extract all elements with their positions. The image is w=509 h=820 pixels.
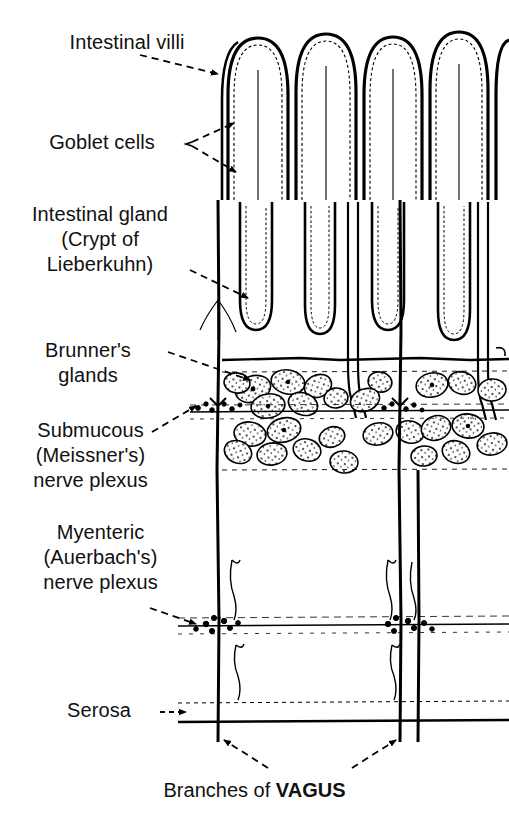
villus [296, 34, 356, 200]
label-submucous-plexus: Submucous (Meissner's) nerve plexus [8, 418, 173, 493]
myenteric-plexus [178, 615, 509, 634]
caption-prefix: Branches of [164, 779, 276, 801]
brunners-glands-group [221, 367, 509, 475]
crypt [240, 202, 272, 330]
caption-vagus: Branches of VAGUS [0, 778, 509, 802]
label-goblet-cells: Goblet cells [22, 130, 182, 155]
label-intestinal-gland: Intestinal gland (Crypt of Lieberkuhn) [10, 202, 190, 277]
villus [496, 40, 509, 200]
arrow-vagus-left [224, 740, 268, 768]
intestinal-wall-diagram: Intestinal villi Goblet cells Intestinal… [0, 0, 509, 820]
arrow-intestinal-villi [140, 55, 218, 74]
caption-emphasis: VAGUS [276, 779, 346, 801]
arrow-vagus-right [352, 740, 396, 768]
label-intestinal-villi: Intestinal villi [22, 30, 232, 55]
submucosa-boundary [222, 469, 509, 470]
mucosal-base [222, 358, 509, 372]
crypt [438, 202, 470, 340]
serosa-lines [178, 701, 509, 722]
villus [430, 32, 488, 200]
arrow-brunners-glands [168, 352, 250, 380]
label-serosa: Serosa [44, 698, 154, 723]
crypt [305, 202, 335, 334]
label-myenteric-plexus: Myenteric (Auerbach's) nerve plexus [18, 520, 183, 595]
arrow-myenteric-plexus [150, 608, 196, 624]
villus [364, 37, 422, 200]
label-brunners-glands: Brunner's glands [18, 338, 158, 388]
villi-group [222, 32, 509, 200]
villus [228, 38, 288, 200]
goblet-bracket [186, 142, 192, 146]
anatomy-illustration [0, 0, 509, 820]
